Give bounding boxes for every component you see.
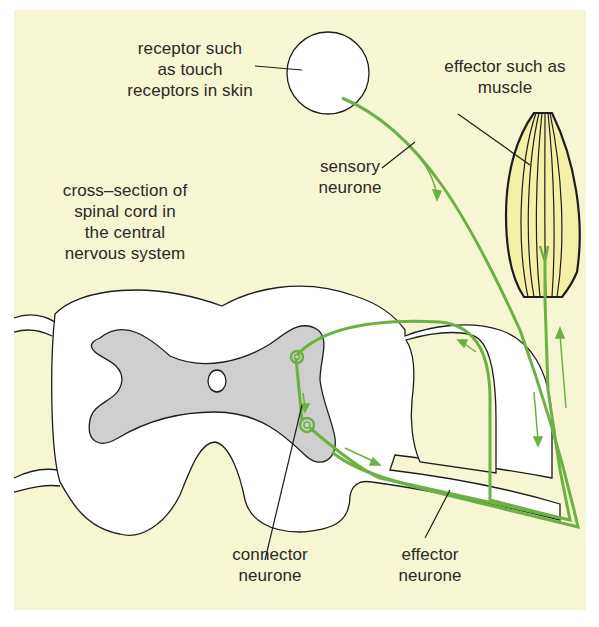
effector-label: effector such as muscle — [420, 56, 590, 98]
receptor — [287, 32, 369, 114]
reflex-arc-diagram: receptor such as touch receptors in skin… — [0, 0, 599, 627]
effector-neurone-label: effector neurone — [380, 544, 480, 586]
left-lower-nerve — [14, 469, 60, 492]
sensory-neurone-label: sensory neurone — [305, 156, 395, 198]
central-canal — [208, 370, 226, 392]
receptor-label: receptor such as touch receptors in skin — [110, 38, 270, 101]
effector-muscle — [506, 113, 580, 297]
connector-neurone-label: connector neurone — [215, 544, 325, 586]
spinal-cord-label: cross–section of spinal cord in the cent… — [40, 180, 210, 264]
